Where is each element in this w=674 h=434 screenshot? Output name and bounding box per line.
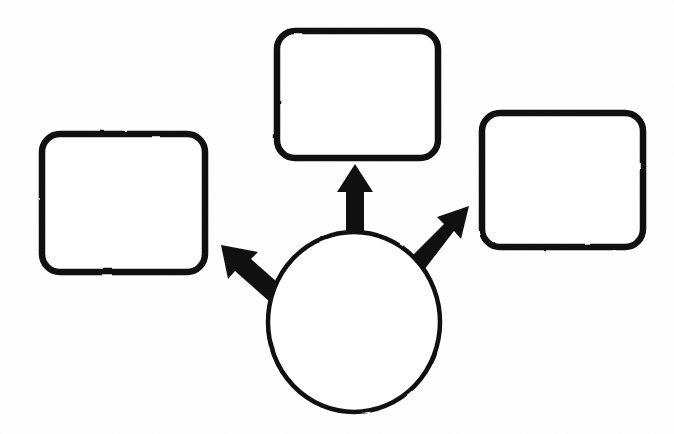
left-box[interactable] [42,134,205,272]
right-box[interactable] [482,113,643,247]
arrow-up-right[interactable] [411,206,469,270]
diagram-svg [0,0,674,434]
left-box-outline [42,134,205,272]
arrow-up[interactable] [337,164,373,240]
top-box-outline [277,31,438,158]
center-ellipse[interactable] [268,232,440,412]
arrow-up-right-body [411,206,469,270]
nodes-layer [42,31,643,412]
right-box-outline [482,113,643,247]
center-ellipse-outline [268,232,440,412]
arrow-up-body [337,164,373,240]
top-box[interactable] [277,31,438,158]
diagram-canvas [0,0,674,434]
